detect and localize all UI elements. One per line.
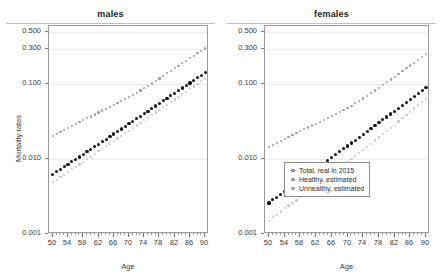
data-point-healthy — [143, 119, 145, 121]
y-tick-mark — [45, 83, 48, 84]
data-point-unhealthy — [101, 109, 103, 111]
data-point-total — [275, 196, 278, 199]
data-point-healthy — [97, 150, 99, 152]
data-point-unhealthy — [155, 80, 157, 82]
data-point-unhealthy — [378, 87, 380, 89]
panel-males: males Mortality rates Age 0.0010.0100.10… — [0, 0, 221, 278]
data-point-total — [381, 118, 384, 121]
x-tick-minor — [350, 233, 351, 235]
data-point-healthy — [358, 152, 360, 154]
data-point-healthy — [52, 181, 54, 183]
x-tick-minor — [358, 233, 359, 235]
x-tick-minor — [59, 233, 60, 235]
x-tick-minor — [139, 233, 140, 235]
x-tick-major — [347, 233, 348, 237]
data-point-total — [120, 127, 123, 130]
x-tick-minor — [386, 233, 387, 235]
data-point-total — [271, 198, 274, 201]
data-point-unhealthy — [52, 135, 54, 137]
data-point-unhealthy — [382, 84, 384, 86]
x-tick-major — [189, 233, 190, 237]
data-point-unhealthy — [362, 97, 364, 99]
data-point-unhealthy — [181, 62, 183, 64]
data-point-total — [154, 104, 157, 107]
data-point-healthy — [147, 117, 149, 119]
data-point-unhealthy — [116, 102, 118, 104]
x-tick-minor — [374, 233, 375, 235]
data-point-healthy — [386, 130, 388, 132]
data-point-unhealthy — [417, 59, 419, 61]
data-point-total — [162, 99, 165, 102]
y-tick-label: 0.500 — [221, 27, 257, 35]
data-point-healthy — [425, 98, 427, 100]
data-point-unhealthy — [421, 56, 423, 58]
data-point-total — [82, 153, 85, 156]
x-tick-label: 90 — [416, 239, 434, 247]
data-point-healthy — [378, 136, 380, 138]
x-tick-minor — [413, 233, 414, 235]
data-point-healthy — [124, 132, 126, 134]
x-tick-minor — [280, 233, 281, 235]
data-point-healthy — [268, 220, 270, 222]
x-tick-minor — [166, 233, 167, 235]
x-tick-minor — [319, 233, 320, 235]
x-tick-minor — [75, 233, 76, 235]
data-point-unhealthy — [162, 75, 164, 77]
y-tick-label: 0.100 — [221, 79, 257, 87]
data-point-unhealthy — [342, 109, 344, 111]
y-tick-mark — [261, 233, 264, 234]
x-tick-minor — [193, 233, 194, 235]
data-point-unhealthy — [109, 106, 111, 108]
data-point-healthy — [366, 146, 368, 148]
legend-item-total: Total, real in 2015 — [289, 166, 364, 175]
data-point-unhealthy — [166, 72, 168, 74]
data-point-healthy — [155, 111, 157, 113]
y-tick-mark — [45, 233, 48, 234]
data-point-healthy — [417, 104, 419, 106]
title-divider — [6, 23, 215, 24]
data-point-healthy — [71, 168, 73, 170]
data-point-total — [135, 117, 138, 120]
x-tick-minor — [86, 233, 87, 235]
data-point-total — [124, 125, 127, 128]
data-point-unhealthy — [287, 136, 289, 138]
data-point-unhealthy — [276, 142, 278, 144]
data-point-total — [417, 92, 420, 95]
data-point-healthy — [177, 96, 179, 98]
data-point-unhealthy — [346, 107, 348, 109]
data-point-total — [358, 136, 361, 139]
y-tick-mark — [45, 158, 48, 159]
data-point-unhealthy — [75, 123, 77, 125]
data-point-unhealthy — [323, 119, 325, 121]
data-point-total — [405, 101, 408, 104]
y-tick-mark — [261, 31, 264, 32]
data-point-unhealthy — [370, 92, 372, 94]
data-point-healthy — [139, 122, 141, 124]
data-point-healthy — [354, 155, 356, 157]
y-tick-label: 0.500 — [0, 27, 41, 35]
y-tick-label: 0.010 — [0, 154, 41, 162]
data-point-unhealthy — [189, 57, 191, 59]
data-point-healthy — [295, 199, 297, 201]
x-tick-minor — [311, 233, 312, 235]
data-point-healthy — [291, 202, 293, 204]
data-point-total — [413, 95, 416, 98]
y-tick-label: 0.300 — [0, 44, 41, 52]
data-point-unhealthy — [284, 138, 286, 140]
y-tick-label: 0.001 — [221, 229, 257, 237]
x-tick-minor — [272, 233, 273, 235]
data-point-total — [200, 74, 203, 77]
data-point-unhealthy — [82, 119, 84, 121]
y-tick-label: 0.010 — [221, 154, 257, 162]
plot-area-females — [264, 25, 429, 233]
data-point-unhealthy — [350, 105, 352, 107]
data-point-unhealthy — [331, 115, 333, 117]
data-point-total — [389, 112, 392, 115]
x-tick-minor — [147, 233, 148, 235]
data-point-healthy — [132, 127, 134, 129]
y-tick-mark — [45, 48, 48, 49]
data-point-healthy — [200, 80, 202, 82]
data-point-unhealthy — [295, 132, 297, 134]
x-tick-minor — [307, 233, 308, 235]
x-tick-minor — [327, 233, 328, 235]
